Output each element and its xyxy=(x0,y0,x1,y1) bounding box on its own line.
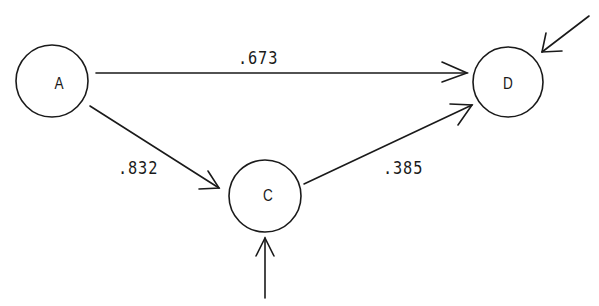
edge-a-to-c-label: .832 xyxy=(118,157,158,178)
node-c-label: C xyxy=(263,186,273,206)
path-diagram xyxy=(0,0,599,306)
node-a-label: A xyxy=(54,74,63,94)
external-input-c-arrow xyxy=(256,238,274,298)
node-d-label: D xyxy=(503,74,513,94)
edge-c-to-d-label: .385 xyxy=(383,157,423,178)
edge-a-to-d-label: .673 xyxy=(238,47,278,68)
node-a-circle xyxy=(16,45,88,117)
edge-a-to-d-arrow xyxy=(96,62,467,82)
external-input-d-arrow xyxy=(542,16,589,52)
